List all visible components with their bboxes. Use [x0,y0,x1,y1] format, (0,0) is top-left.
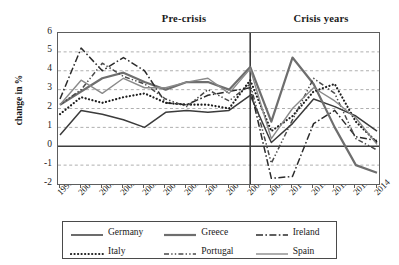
y-tick-label: -1 [30,158,52,168]
legend-item-germany[interactable]: Germany [63,222,156,241]
plot-area [57,32,380,185]
y-tick-label: 4 [30,63,52,73]
legend-row: GermanyGreeceIreland [63,222,336,241]
legend-swatch-greece [163,226,197,237]
legend-row: ItalyPortugalSpain [63,241,336,260]
legend-item-greece[interactable]: Greece [156,222,247,241]
legend-item-portugal[interactable]: Portugal [156,241,247,260]
y-tick-label: 6 [30,26,52,36]
legend-label: Spain [293,246,315,256]
legend-swatch-italy [70,245,104,256]
legend-swatch-spain [255,245,289,256]
series-line-ireland [60,48,377,178]
legend-label: Greece [201,227,228,237]
y-axis-title: change in % [14,45,24,155]
legend-item-spain[interactable]: Spain [248,241,336,260]
period-label-pre-crisis: Pre-crisis [118,13,250,24]
plot-svg [58,33,379,184]
legend-item-ireland[interactable]: Ireland [248,222,336,241]
legend-label: Italy [108,246,125,256]
y-tick-label: 2 [30,101,52,111]
y-tick-label: -2 [30,177,52,187]
legend-item-italy[interactable]: Italy [63,241,156,260]
legend-label: Ireland [293,227,320,237]
legend-label: Germany [108,227,143,237]
legend-swatch-ireland [255,226,289,237]
legend-label: Portugal [201,246,233,256]
chart-figure: Pre-crisis Crisis years change in % 6543… [0,0,399,265]
chart-legend: GermanyGreeceIrelandItalyPortugalSpain [62,221,337,259]
period-label-crisis-years: Crisis years [258,13,384,24]
y-tick-label: 5 [30,44,52,54]
y-tick-label: 3 [30,82,52,92]
y-tick-label: 1 [30,120,52,130]
y-tick-label: 0 [30,139,52,149]
legend-swatch-germany [70,226,104,237]
legend-swatch-portugal [163,245,197,256]
